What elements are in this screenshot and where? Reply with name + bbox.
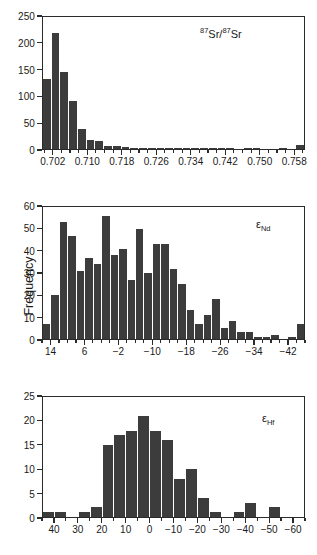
x-axis-minor-tick	[185, 518, 186, 521]
histogram-bar	[186, 469, 198, 517]
y-axis-tick	[37, 469, 42, 470]
histogram-bar	[85, 258, 93, 339]
histogram-bar	[271, 335, 279, 339]
annotation-strontium-ratio: 87Sr/87Sr	[200, 26, 242, 40]
y-axis-tick-label: 40	[24, 245, 35, 256]
x-axis-tick	[259, 150, 260, 155]
y-axis-tick	[37, 205, 42, 206]
figure-root: Frequency 050100150200250 0.7020.7100.71…	[0, 0, 317, 555]
histogram-bar	[51, 295, 59, 339]
x-axis-tick-label: 40	[48, 524, 59, 535]
x-axis-tick-label: 6	[82, 346, 88, 357]
x-axis-tick	[173, 518, 174, 523]
x-axis-minor-tick	[182, 150, 183, 153]
x-axis-tick-label: −40	[237, 524, 254, 535]
x-axis-strontium: 0.7020.7100.7180.7260.7340.7420.7500.758	[42, 150, 305, 170]
panel-strontium: 050100150200250 0.7020.7100.7180.7260.73…	[0, 0, 317, 190]
y-axis-tick	[37, 42, 42, 43]
histogram-bar	[209, 148, 218, 149]
y-axis-tick-label: 50	[24, 118, 35, 129]
x-axis-tick	[52, 150, 53, 155]
histogram-bar	[87, 140, 96, 150]
x-axis-minor-tick	[228, 340, 229, 343]
histogram-bar	[104, 146, 113, 149]
histogram-bar	[148, 148, 157, 149]
x-axis-minor-tick	[285, 150, 286, 153]
y-axis-strontium: 050100150200250	[0, 16, 42, 150]
x-axis-tick	[53, 518, 54, 523]
x-axis-minor-tick	[276, 150, 277, 153]
y-axis-tick-label: 150	[18, 64, 35, 75]
x-axis-tick-label: −2	[113, 346, 124, 357]
x-axis-minor-tick	[169, 340, 170, 343]
x-axis-minor-tick	[41, 340, 42, 343]
x-axis-tick	[77, 518, 78, 523]
histogram-bar	[136, 229, 144, 339]
x-axis-tick	[121, 150, 122, 155]
x-axis-minor-tick	[302, 150, 303, 153]
x-axis-minor-tick	[135, 340, 136, 343]
x-axis-tick-label: 0.734	[178, 156, 203, 167]
x-axis-tick	[118, 340, 119, 345]
histogram-bar	[237, 332, 245, 339]
histogram-bar	[122, 147, 131, 149]
y-axis-tick-label: 0	[29, 513, 35, 524]
x-axis-tick-label: −20	[189, 524, 206, 535]
y-axis-tick	[37, 272, 42, 273]
histogram-bar	[174, 479, 186, 517]
histogram-bar	[183, 148, 192, 149]
y-axis-tick-label: 10	[24, 312, 35, 323]
x-axis-minor-tick	[173, 150, 174, 153]
x-axis-tick	[197, 518, 198, 523]
histogram-bar	[210, 512, 222, 517]
histogram-bar	[103, 445, 115, 517]
y-axis-tick-label: 250	[18, 11, 35, 22]
histogram-bar	[161, 244, 169, 339]
x-axis-tick-label: −60	[285, 524, 302, 535]
panel-epsilon-nd: 0102030405060 146−2−10−18−26−34−42 εNd	[0, 192, 317, 382]
x-axis-tick	[101, 518, 102, 523]
x-axis-minor-tick	[113, 150, 114, 153]
x-axis-minor-tick	[242, 150, 243, 153]
x-axis-tick-label: 0.758	[282, 156, 307, 167]
x-axis-minor-tick	[304, 340, 305, 343]
histogram-bar	[43, 324, 51, 339]
x-axis-minor-tick	[130, 150, 131, 153]
y-axis-tick	[37, 250, 42, 251]
histogram-bar	[60, 222, 68, 339]
histogram-bar	[144, 273, 152, 339]
x-axis-tick-label: −30	[213, 524, 230, 535]
histogram-bar	[128, 280, 136, 339]
x-axis-epsilon-nd: 146−2−10−18−26−34−42	[42, 340, 305, 360]
x-axis-minor-tick	[270, 340, 271, 343]
y-axis-tick-label: 10	[24, 464, 35, 475]
x-axis-minor-tick	[137, 518, 138, 521]
histogram-bar	[139, 148, 148, 149]
histogram-bar	[200, 148, 209, 149]
x-axis-tick	[292, 518, 293, 523]
x-axis-tick-label: 0.702	[40, 156, 65, 167]
y-axis-tick	[37, 96, 42, 97]
y-axis-tick	[37, 395, 42, 396]
histogram-bar	[94, 264, 102, 339]
x-axis-minor-tick	[279, 340, 280, 343]
panel-epsilon-hf: 0510152025 403020100−10−20−30−40−50−60 ε…	[0, 382, 317, 555]
bar-series-strontium	[43, 17, 304, 149]
histogram-bar	[254, 337, 262, 339]
x-axis-tick	[287, 340, 288, 345]
x-axis-minor-tick	[67, 340, 68, 343]
y-axis-tick-label: 50	[24, 223, 35, 234]
x-axis-minor-tick	[126, 340, 127, 343]
histogram-bar	[119, 249, 127, 339]
histogram-bar	[279, 148, 288, 149]
histogram-bar	[198, 498, 210, 517]
x-axis-tick	[253, 340, 254, 345]
x-axis-minor-tick	[78, 150, 79, 153]
x-axis-tick	[225, 150, 226, 155]
x-axis-tick	[294, 150, 295, 155]
y-axis-tick-label: 200	[18, 37, 35, 48]
y-axis-tick-label: 20	[24, 415, 35, 426]
y-axis-tick	[37, 228, 42, 229]
x-axis-minor-tick	[237, 340, 238, 343]
x-axis-tick	[149, 518, 150, 523]
